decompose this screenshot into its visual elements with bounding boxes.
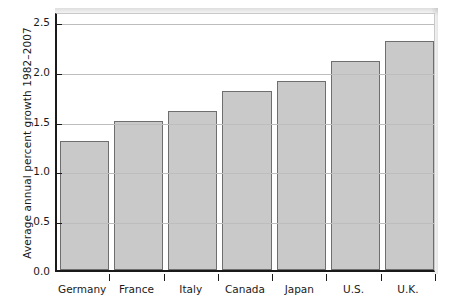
bar-france[interactable] <box>114 121 163 270</box>
y-tick-label: 1.5 <box>22 117 50 128</box>
y-tickmark <box>57 223 62 224</box>
gridline <box>57 223 434 224</box>
x-category-label: U.K. <box>381 283 435 296</box>
x-tickmark <box>435 274 436 281</box>
x-tickmark <box>109 274 110 281</box>
x-tickmark <box>272 274 273 281</box>
y-tickmark <box>57 124 62 125</box>
bar-italy[interactable] <box>168 111 217 270</box>
y-tickmark <box>57 74 62 75</box>
bar-japan[interactable] <box>277 81 326 270</box>
x-tickmark <box>326 274 327 281</box>
gridline <box>57 173 434 174</box>
y-tickmark <box>57 173 62 174</box>
x-category-label: U.S. <box>326 283 380 296</box>
x-tickmark <box>164 274 165 281</box>
y-tickmark <box>57 24 62 25</box>
y-tick-label: 1.0 <box>22 166 50 177</box>
x-category-label: Japan <box>272 283 326 296</box>
x-category-label: Canada <box>218 283 272 296</box>
bar-chart-figure: Average annual percent growth 1982–2007 … <box>0 0 454 306</box>
plot-area <box>55 13 435 272</box>
y-tick-label: 0.5 <box>22 216 50 227</box>
bar-germany[interactable] <box>60 141 109 271</box>
x-category-label: Italy <box>164 283 218 296</box>
y-tick-label: 0.0 <box>22 266 50 277</box>
x-category-label: Germany <box>55 283 109 296</box>
y-axis-tick-labels: 0.00.51.01.52.02.5 <box>22 0 50 306</box>
bar-u-k[interactable] <box>385 41 434 270</box>
plot-inner <box>57 14 434 270</box>
gridline <box>57 24 434 25</box>
bar-canada[interactable] <box>222 91 271 270</box>
x-tickmark <box>381 274 382 281</box>
y-tick-label: 2.5 <box>22 17 50 28</box>
bar-u-s[interactable] <box>331 61 380 270</box>
x-category-label: France <box>109 283 163 296</box>
x-tickmark <box>218 274 219 281</box>
y-tick-label: 2.0 <box>22 67 50 78</box>
gridline <box>57 74 434 75</box>
x-axis: GermanyFranceItalyCanadaJapanU.S.U.K. <box>55 272 435 306</box>
gridline <box>57 124 434 125</box>
